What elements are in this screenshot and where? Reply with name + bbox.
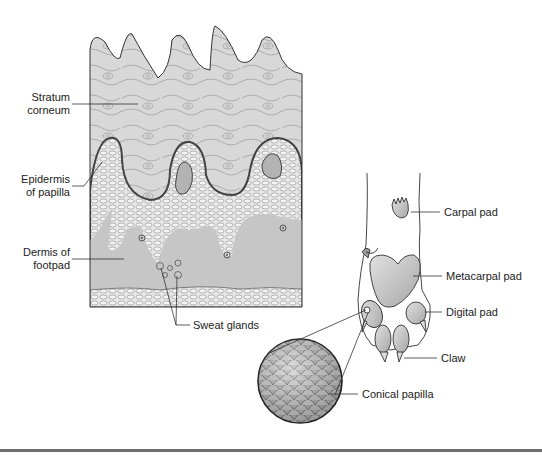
label-line: Dermis of xyxy=(23,246,70,259)
label-line: Epidermis xyxy=(21,173,70,186)
label-carpal-pad: Carpal pad xyxy=(444,206,498,219)
conical-papilla-magnified xyxy=(258,310,368,423)
label-digital-pad: Digital pad xyxy=(446,306,498,319)
bottom-rule xyxy=(0,449,542,452)
label-conical-papilla: Conical papilla xyxy=(362,388,434,401)
label-claw: Claw xyxy=(441,352,465,365)
forepaw-illustration xyxy=(358,173,430,362)
label-line: Stratum xyxy=(27,91,70,104)
label-sweat-glands: Sweat glands xyxy=(193,319,259,332)
label-line: of papilla xyxy=(21,186,70,199)
footpad-diagram xyxy=(0,0,542,460)
label-stratum-corneum: Stratum corneum xyxy=(27,91,70,117)
label-dermis-of-footpad: Dermis of footpad xyxy=(23,246,70,272)
label-line: corneum xyxy=(27,104,70,117)
label-line: footpad xyxy=(23,259,70,272)
footpad-section-illustration xyxy=(85,20,307,310)
label-epidermis-of-papilla: Epidermis of papilla xyxy=(21,173,70,199)
label-metacarpal-pad: Metacarpal pad xyxy=(446,270,522,283)
